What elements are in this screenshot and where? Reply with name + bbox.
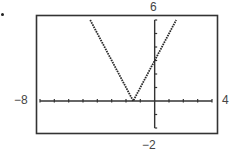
graph-line (90, 20, 176, 101)
axes (40, 20, 212, 128)
plot-curve (90, 20, 176, 101)
axis-ticks (40, 20, 212, 128)
window-frame (37, 16, 218, 134)
graph-window (0, 0, 238, 159)
